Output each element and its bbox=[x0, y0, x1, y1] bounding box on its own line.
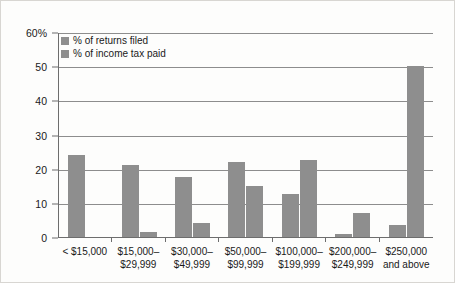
y-axis: 60%50403020100 bbox=[1, 1, 58, 282]
x-axis-label-line2: $49,999 bbox=[165, 259, 219, 272]
bar-group bbox=[166, 33, 219, 237]
bar-series-2 bbox=[407, 66, 424, 237]
x-axis-category-label: < $15,000 bbox=[58, 243, 112, 281]
x-axis-group-divider bbox=[272, 237, 273, 242]
x-axis-label-line1: $15,000– bbox=[118, 246, 160, 257]
bar-series-2 bbox=[300, 160, 317, 237]
chart-figure: 60%50403020100 % of returns filed% of in… bbox=[0, 0, 455, 283]
x-axis-group-divider bbox=[379, 237, 380, 242]
x-axis-label-line1: $30,000– bbox=[171, 246, 213, 257]
x-axis-group-divider bbox=[325, 237, 326, 242]
bar-series-1 bbox=[228, 162, 245, 237]
y-axis-tick-label: 30 bbox=[35, 130, 47, 141]
bar-series-2 bbox=[140, 232, 157, 237]
x-axis-label-line1: $100,000– bbox=[275, 246, 322, 257]
bar-group bbox=[112, 33, 165, 237]
y-axis-tick-label: 40 bbox=[35, 96, 47, 107]
legend-item-label: % of returns filed bbox=[73, 35, 148, 47]
x-axis-group-divider bbox=[218, 237, 219, 242]
x-axis-category-label: $250,000and above bbox=[379, 243, 433, 281]
x-axis: < $15,000$15,000–$29,999$30,000–$49,999$… bbox=[58, 243, 433, 281]
x-axis-category-label: $200,000–$249,999 bbox=[326, 243, 380, 281]
y-axis-tick-label: 60% bbox=[26, 28, 47, 39]
bar-group bbox=[326, 33, 379, 237]
legend-swatch-icon bbox=[61, 37, 69, 45]
bar-series-1 bbox=[335, 234, 352, 237]
bar-group bbox=[380, 33, 433, 237]
x-axis-label-line2: $29,999 bbox=[112, 259, 166, 272]
bar-group bbox=[219, 33, 272, 237]
bar-series-1 bbox=[122, 165, 139, 237]
x-axis-category-label: $30,000–$49,999 bbox=[165, 243, 219, 281]
bar-group bbox=[273, 33, 326, 237]
chart-legend: % of returns filed% of income tax paid bbox=[61, 33, 166, 60]
bar-series-2 bbox=[353, 213, 370, 237]
x-axis-label-line2: and above bbox=[379, 259, 433, 272]
x-axis-label-line1: < $15,000 bbox=[62, 246, 107, 257]
bar-group bbox=[59, 33, 112, 237]
x-axis-category-label: $100,000–$199,999 bbox=[272, 243, 326, 281]
x-axis-label-line2: $199,999 bbox=[272, 259, 326, 272]
bar-series-1 bbox=[68, 155, 85, 237]
plot-area bbox=[58, 33, 433, 238]
x-axis-label-line1: $200,000– bbox=[329, 246, 376, 257]
y-axis-tick-label: 50 bbox=[35, 62, 47, 73]
y-axis-tick-label: 10 bbox=[35, 199, 47, 210]
legend-item-label: % of income tax paid bbox=[73, 48, 166, 60]
x-axis-label-line1: $50,000– bbox=[225, 246, 267, 257]
x-axis-group-divider bbox=[111, 237, 112, 242]
legend-item: % of income tax paid bbox=[61, 48, 166, 60]
legend-item: % of returns filed bbox=[61, 35, 166, 47]
x-axis-category-label: $15,000–$29,999 bbox=[112, 243, 166, 281]
y-axis-tick-label: 0 bbox=[41, 233, 47, 244]
x-axis-category-label: $50,000–$99,999 bbox=[219, 243, 273, 281]
bar-series-2 bbox=[246, 186, 263, 237]
bar-groups bbox=[59, 33, 433, 237]
bar-series-1 bbox=[282, 194, 299, 237]
x-axis-label-line2: $249,999 bbox=[326, 259, 380, 272]
legend-swatch-icon bbox=[61, 50, 69, 58]
x-axis-label-line1: $250,000 bbox=[385, 246, 427, 257]
x-axis-group-divider bbox=[165, 237, 166, 242]
bar-series-1 bbox=[175, 177, 192, 237]
y-axis-tick-label: 20 bbox=[35, 164, 47, 175]
x-axis-label-line2: $99,999 bbox=[219, 259, 273, 272]
bar-series-1 bbox=[389, 225, 406, 237]
bar-series-2 bbox=[193, 223, 210, 237]
